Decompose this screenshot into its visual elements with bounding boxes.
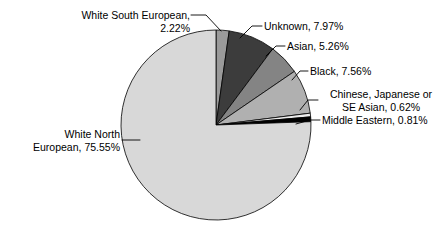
pie-label-unknown: Unknown, 7.97% (264, 20, 394, 33)
pie-label-middle-eastern: Middle Eastern, 0.81% (322, 114, 442, 127)
leader-line-white-south-european (191, 15, 221, 31)
pie-label-white-south-european: White South European, 2.22% (72, 9, 190, 34)
pie-chart-figure: White South European, 2.22% Unknown, 7.9… (0, 0, 442, 233)
pie-slices (121, 30, 311, 220)
pie-label-black: Black, 7.56% (310, 65, 420, 78)
pie-label-chinese-japanese-se-asian: Chinese, Japanese or SE Asian, 0.62% (320, 88, 442, 113)
pie-label-white-north-european: White North European, 75.55% (12, 128, 120, 153)
pie-label-asian: Asian, 5.26% (287, 40, 407, 53)
